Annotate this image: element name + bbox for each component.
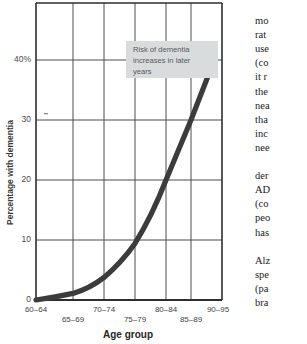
body-line: mo bbox=[255, 14, 307, 28]
body-text-column: mo rat use (co it r the nea tha inc nee … bbox=[255, 0, 307, 344]
body-paragraph-3: Alz spe (pa bra bbox=[255, 254, 307, 310]
y-axis-title: Percentage with dementia bbox=[5, 120, 15, 225]
y-tick-40: 40% bbox=[14, 54, 31, 64]
dementia-risk-chart: 40% 30 20 10 0 Percentage with dementia … bbox=[0, 0, 238, 344]
y-tick-10: 10 bbox=[22, 234, 32, 244]
scan-artifact bbox=[44, 113, 48, 114]
paragraph-gap bbox=[255, 155, 307, 169]
callout-annotation: Risk of dementia increases in later year… bbox=[126, 41, 218, 78]
x-axis-title: Age group bbox=[103, 329, 153, 340]
body-line: bra bbox=[255, 296, 307, 310]
x-tick-75-79: 75–79 bbox=[124, 315, 147, 324]
paragraph-gap bbox=[255, 240, 307, 254]
callout-line-1: Risk of dementia bbox=[133, 45, 190, 54]
body-line: der bbox=[255, 169, 307, 183]
chart-svg: 40% 30 20 10 0 Percentage with dementia … bbox=[0, 0, 238, 344]
body-line: has bbox=[255, 226, 307, 240]
callout-line-3: years bbox=[133, 67, 152, 76]
body-line: rat bbox=[255, 28, 307, 42]
body-line: nee bbox=[255, 141, 307, 155]
body-line: use bbox=[255, 42, 307, 56]
callout-line-2: increases in later bbox=[133, 56, 191, 65]
body-line: inc bbox=[255, 127, 307, 141]
body-paragraph-2: der AD (co peo has bbox=[255, 169, 307, 239]
body-line: (co bbox=[255, 197, 307, 211]
y-tick-30: 30 bbox=[22, 114, 32, 124]
x-tick-80-84: 80–84 bbox=[155, 305, 178, 314]
body-line: nea bbox=[255, 99, 307, 113]
body-line: spe bbox=[255, 268, 307, 282]
x-tick-65-69: 65–69 bbox=[62, 315, 85, 324]
body-line: it r bbox=[255, 70, 307, 84]
body-line: Alz bbox=[255, 254, 307, 268]
x-tick-85-89: 85–89 bbox=[180, 315, 203, 324]
body-line: peo bbox=[255, 211, 307, 225]
body-line: (pa bbox=[255, 282, 307, 296]
x-tick-60-64: 60–64 bbox=[25, 305, 48, 314]
body-line: tha bbox=[255, 113, 307, 127]
x-tick-90-95: 90–95 bbox=[207, 305, 230, 314]
y-tick-0: 0 bbox=[26, 294, 31, 304]
body-paragraph-1: mo rat use (co it r the nea tha inc nee bbox=[255, 14, 307, 155]
body-line: the bbox=[255, 85, 307, 99]
y-tick-20: 20 bbox=[22, 174, 32, 184]
x-tick-70-74: 70–74 bbox=[93, 305, 116, 314]
body-line: AD bbox=[255, 183, 307, 197]
body-line: (co bbox=[255, 56, 307, 70]
